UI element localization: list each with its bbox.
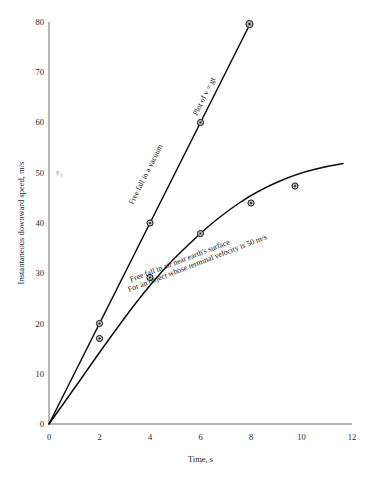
x-tick-0: 0 — [47, 432, 51, 442]
air-curve-label-line2: For an object whose terminal velocity is… — [126, 232, 268, 293]
y-tick-0: 0 — [40, 419, 44, 429]
y-tick-30: 30 — [36, 268, 45, 278]
x-tick-10: 10 — [297, 432, 306, 442]
x-axis-title: Time, s — [188, 454, 213, 464]
data-point-vacuum-6-core — [199, 121, 201, 123]
y-tick-50: 50 — [36, 168, 45, 178]
x-tick-8: 8 — [249, 432, 253, 442]
air-curve-series — [49, 164, 343, 425]
air-curve-path — [49, 164, 343, 425]
vacuum-line-label: Free fall in a vacuum — [127, 143, 165, 206]
vt-symbol: v — [56, 168, 60, 177]
y-axis-title: Instantaneous downward speed, m/s — [16, 162, 26, 285]
data-point-air-8-core — [250, 202, 252, 204]
x-tick-6: 6 — [198, 432, 202, 442]
x-tick-4: 4 — [148, 432, 153, 442]
y-tick-80: 80 — [36, 17, 45, 27]
terminal-velocity-marker: v t — [56, 168, 63, 178]
y-tick-40: 40 — [36, 218, 45, 228]
y-tick-70: 70 — [36, 67, 45, 77]
y-tick-60: 60 — [36, 117, 45, 127]
data-point-air-2-core — [98, 337, 100, 339]
data-point-vacuum-8-core — [248, 23, 251, 26]
data-point-air-6-core — [199, 232, 201, 234]
vacuum-line-series — [49, 20, 253, 424]
chart-figure: 80 70 60 50 40 30 20 10 0 0 2 4 6 8 10 1… — [0, 0, 373, 478]
data-point-air-10-core — [294, 185, 296, 187]
y-tick-10: 10 — [36, 369, 45, 379]
y-tick-labels: 80 70 60 50 40 30 20 10 0 — [36, 17, 45, 429]
vt-subscript: t — [61, 172, 63, 178]
free-fall-speed-chart: 80 70 60 50 40 30 20 10 0 0 2 4 6 8 10 1… — [0, 0, 373, 478]
x-tick-12: 12 — [348, 432, 357, 442]
data-point-vacuum-2-core — [98, 322, 100, 324]
data-point-vacuum-4-core — [149, 222, 151, 224]
x-tick-labels: 0 2 4 6 8 10 12 — [47, 432, 356, 442]
y-tick-20: 20 — [36, 319, 45, 329]
axis-group — [49, 22, 352, 424]
x-tick-2: 2 — [97, 432, 101, 442]
